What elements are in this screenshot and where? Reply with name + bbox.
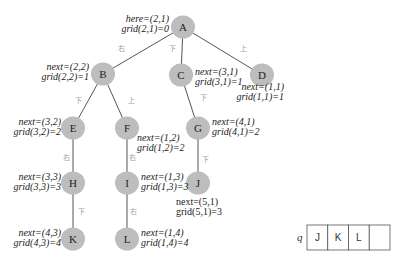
queue-cell: J (307, 225, 328, 250)
node-I: I (115, 172, 139, 195)
edge-label: 下 (169, 45, 176, 53)
node-K: K (61, 228, 85, 251)
node-label: H (69, 177, 77, 189)
annotation-A: here=(2,1)grid(2,1)=0 (121, 13, 169, 35)
annotation-K: next=(4,3)grid(4,3)=4 (13, 227, 61, 249)
annotation-B: next=(2,2)grid(2,2)=1 (41, 61, 89, 83)
annotation-grid: grid(3,1)=1 (195, 76, 243, 88)
annotation-grid: grid(3,3)=3 (13, 181, 61, 193)
node-label: K (69, 233, 77, 245)
node-F: F (115, 117, 139, 140)
node-label: D (258, 69, 266, 81)
annotation-grid: grid(1,1)=1 (236, 91, 284, 103)
annotation-G: next=(4,1)grid(4,1)=2 (212, 116, 260, 138)
queue-name: q (297, 231, 303, 243)
queue-cell-value: L (356, 232, 362, 243)
queue-cell: L (349, 225, 370, 250)
annotation-grid: grid(1,2)=2 (137, 142, 185, 154)
edge-label: 右 (130, 207, 137, 216)
queue-cell: K (328, 225, 349, 250)
annotation-grid: grid(1,4)=4 (141, 237, 189, 249)
node-L: L (115, 228, 139, 251)
edge-label: 右 (63, 153, 70, 162)
node-J: J (186, 172, 210, 195)
annotation-L: next=(1,4)grid(1,4)=4 (141, 227, 189, 249)
node-A: A (171, 16, 195, 39)
annotation-grid: grid(4,3)=4 (13, 237, 61, 249)
bfs-tree-diagram: 右下上下上下右右下下右 ABCDEFGHIJKL here=(2,1)grid(… (0, 0, 400, 265)
annotation-F: next=(1,2)grid(1,2)=2 (137, 132, 185, 154)
edge-label: 下 (202, 156, 209, 164)
queue-cell-value: K (335, 232, 342, 243)
annotation-D: next=(1,1)grid(1,1)=1 (236, 81, 284, 103)
queue-cell-value: J (315, 232, 320, 243)
edge-label: 上 (240, 44, 247, 53)
node-label: I (125, 177, 129, 189)
node-label: F (124, 122, 130, 134)
annotation-grid: grid(1,3)=3 (141, 181, 189, 193)
queue: q JKL (297, 225, 390, 250)
node-C: C (169, 64, 193, 87)
annotation-grid: grid(2,1)=0 (121, 23, 169, 35)
node-label: B (99, 68, 106, 80)
node-label: G (194, 122, 202, 134)
edge-label: 右 (118, 44, 125, 53)
edge-label: 下 (75, 97, 82, 105)
annotation-I: next=(1,3)grid(1,3)=3 (141, 171, 189, 193)
queue-cell (369, 225, 390, 250)
edge-label: 下 (78, 208, 85, 216)
node-G: G (186, 117, 210, 140)
annotation-grid: grid(2,2)=1 (41, 71, 89, 83)
annotation-grid: grid(5,1)=3 (176, 206, 222, 218)
node-label: J (196, 177, 201, 189)
node-B: B (91, 63, 115, 86)
node-label: E (70, 122, 77, 134)
node-label: C (177, 69, 184, 81)
annotation-H: next=(3,3)grid(3,3)=3 (13, 171, 61, 193)
node-E: E (61, 117, 85, 140)
annotation-grid: grid(3,2)=2 (13, 126, 61, 138)
edge-label: 上 (128, 96, 135, 105)
edge-label: 下 (200, 94, 207, 102)
node-label: L (124, 233, 131, 245)
annotation-J: next=(5,1)grid(5,1)=3 (176, 196, 222, 218)
queue-cells: JKL (307, 225, 390, 250)
node-H: H (61, 172, 85, 195)
annotation-grid: grid(4,1)=2 (212, 126, 260, 138)
annotation-E: next=(3,2)grid(3,2)=2 (13, 116, 61, 138)
edge-label: 右 (129, 153, 136, 162)
node-label: A (179, 21, 187, 33)
queue-cell-box (369, 225, 390, 250)
annotation-C: next=(3,1)grid(3,1)=1 (195, 66, 243, 88)
